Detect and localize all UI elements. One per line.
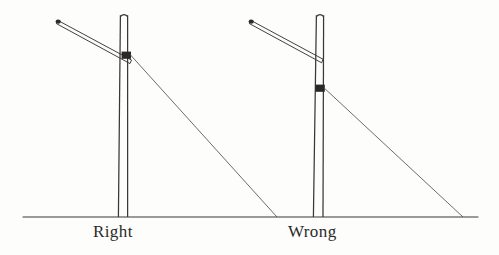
- right-assembly: [56, 15, 277, 217]
- wrong-assembly: [249, 15, 463, 217]
- figure-container: Right Wrong: [0, 0, 499, 255]
- gaff-spar-wrong: [249, 19, 323, 62]
- stay-band-fitting-wrong: [315, 85, 324, 92]
- stay-band-fitting-right: [122, 52, 131, 59]
- line-drawing: [0, 0, 499, 255]
- stay-line-wrong: [324, 88, 463, 217]
- caption-wrong: Wrong: [288, 222, 337, 242]
- caption-right: Right: [93, 222, 133, 242]
- mast-wrong: [313, 15, 323, 217]
- mast-right: [118, 15, 127, 217]
- stay-line-right: [130, 54, 277, 217]
